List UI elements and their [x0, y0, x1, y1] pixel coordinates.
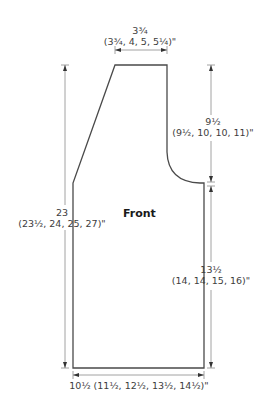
neck-width-dimension-line [115, 46, 167, 54]
neck-width-sizes: (3¾, 4, 5, 5¼)" [85, 36, 195, 47]
neck-width-main: 3¾ [85, 25, 195, 36]
bottom-width-dimension-line [73, 371, 204, 379]
side-length-main: 13½ [156, 264, 266, 275]
total-length-sizes: (23½, 24, 25, 27)" [2, 218, 122, 229]
armhole-depth-label: 9½ (9½, 10, 10, 11)" [158, 116, 268, 138]
neck-width-label: 3¾ (3¾, 4, 5, 5¼)" [85, 25, 195, 47]
side-length-sizes: (14, 14, 15, 16)" [156, 275, 266, 286]
side-length-label: 13½ (14, 14, 15, 16)" [156, 264, 266, 286]
piece-title: Front [123, 207, 156, 220]
total-length-main: 23 [2, 207, 122, 218]
armhole-depth-sizes: (9½, 10, 10, 11)" [158, 127, 268, 138]
bottom-width-label: 10½ (11½, 12½, 13½, 14½)" [44, 380, 234, 391]
bottom-width-text: 10½ (11½, 12½, 13½, 14½)" [44, 380, 234, 391]
armhole-depth-main: 9½ [158, 116, 268, 127]
total-length-label: 23 (23½, 24, 25, 27)" [2, 207, 122, 229]
